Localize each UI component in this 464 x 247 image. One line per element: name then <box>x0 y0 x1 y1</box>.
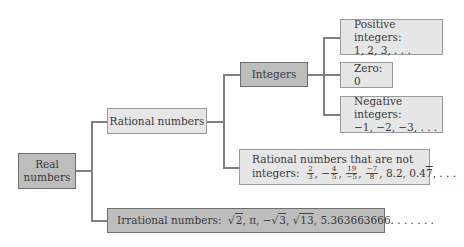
node-integers: Integers <box>240 62 308 87</box>
sqrt-3: 3 <box>278 213 286 226</box>
connector-to-positive <box>323 37 340 39</box>
connector-to-negative <box>323 114 340 116</box>
rational-label: Rational numbers <box>110 115 205 128</box>
integers-label: Integers <box>252 68 297 81</box>
node-zero: Zero: 0 <box>340 62 393 88</box>
connector-integers-vertical <box>323 37 325 115</box>
pi-symbol: π <box>249 214 256 226</box>
repeating-digit: 7 <box>426 167 433 179</box>
sqrt-2: 2 <box>235 213 243 226</box>
connector-to-rational <box>91 121 107 123</box>
node-real-numbers: Real numbers <box>18 153 76 189</box>
positive-line1: Positive integers: <box>354 18 442 44</box>
fraction-19-neg5: 19−5 <box>346 166 357 181</box>
non-integer-line2: integers: 23, −45, 19−5, −78, 8.2, 0.47,… <box>252 166 429 181</box>
real-line2: numbers <box>24 171 71 184</box>
positive-line2: 1, 2, 3, . . . <box>354 44 442 57</box>
connector-rational-vertical <box>223 74 225 168</box>
connector-rational-stub <box>207 121 223 123</box>
node-irrational-numbers: Irrational numbers: √2, π, −√3, √13, 5.3… <box>107 208 385 233</box>
negative-line1: Negative integers: <box>354 95 442 121</box>
irrational-line: Irrational numbers: √2, π, −√3, √13, 5.3… <box>117 214 384 227</box>
node-negative-integers: Negative integers: −1, −2, −3, . . . <box>340 96 443 133</box>
connector-to-non-integer-rational <box>223 167 239 169</box>
real-line1: Real <box>35 158 59 171</box>
connector-real-vertical <box>91 121 93 221</box>
node-non-integer-rational: Rational numbers that are not integers: … <box>239 149 430 185</box>
fraction-neg7-8: −78 <box>366 166 378 181</box>
zero-label: Zero: 0 <box>354 62 392 88</box>
node-positive-integers: Positive integers: 1, 2, 3, . . . <box>340 19 443 55</box>
non-integer-line1: Rational numbers that are not <box>252 153 429 166</box>
fraction-2-3: 23 <box>307 166 313 181</box>
connector-to-irrational <box>91 220 107 222</box>
connector-to-integers <box>223 74 240 76</box>
connector-real-stub <box>76 170 92 172</box>
fraction-4-5: 45 <box>331 166 337 181</box>
sqrt-13: 13 <box>299 213 313 226</box>
negative-line2: −1, −2, −3, . . . <box>354 121 442 134</box>
node-rational-numbers: Rational numbers <box>107 108 207 134</box>
